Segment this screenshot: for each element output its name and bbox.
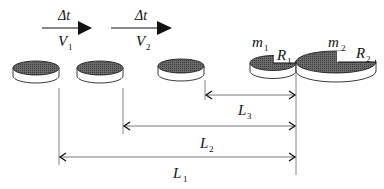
puck-3 [158,59,204,81]
distance-sub-l3: 3 [247,111,252,121]
distance-label-l2: L [199,135,208,151]
collision-diagram: Δt V 1 Δt V 2 m 1 R 1 [0,0,384,189]
mass-sub-m2: 2 [341,43,346,53]
puck-m1: m 1 R 1 [250,34,296,79]
mass-label-m1: m [252,34,263,50]
mass-sub-m1: 1 [264,43,269,53]
velocity-sub-1: 1 [68,42,73,52]
delta-t-label-1: Δt [57,8,71,23]
radius-sub-r1: 1 [287,56,292,66]
distance-l1: L 1 [60,153,295,184]
radius-label-r1: R [276,47,286,63]
delta-t-label-2: Δt [134,8,148,23]
radius-label-r2: R [355,45,365,61]
distance-l3: L 3 [206,91,295,121]
velocity-arrow-2: Δt V 2 [111,8,172,52]
radius-sub-r2: 2 [366,54,371,64]
distance-label-l3: L [237,102,246,118]
velocity-sub-2: 2 [146,42,151,52]
puck-m2: m 2 R 2 [296,34,376,82]
puck-2 [77,61,123,83]
distance-sub-l2: 2 [209,144,214,154]
distance-sub-l1: 1 [183,174,188,184]
distance-label-l1: L [172,165,181,181]
mass-label-m2: m [328,34,339,50]
distance-l2: L 2 [124,122,295,154]
velocity-arrow-1: Δt V 1 [42,8,92,52]
puck-1 [13,61,59,83]
